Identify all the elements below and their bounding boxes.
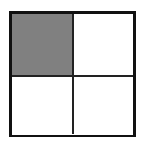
cell-bottom-left — [12, 76, 73, 135]
cell-top-right — [73, 14, 133, 76]
cell-bottom-right — [73, 76, 133, 135]
quadrant-grid — [9, 11, 136, 137]
horizontal-divider — [12, 75, 133, 77]
cell-top-left-shaded — [12, 14, 73, 76]
vertical-divider — [72, 14, 74, 134]
